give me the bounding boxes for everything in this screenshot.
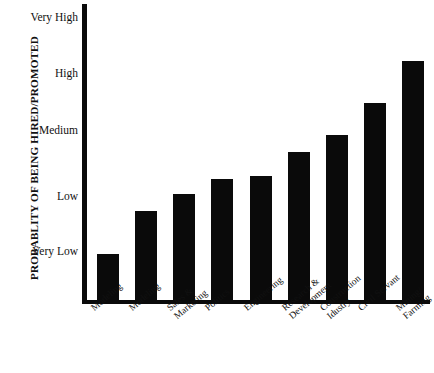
y-axis-tick-labels: Very High High Medium Low Very Low — [4, 0, 78, 310]
y-tick-label-very-low: Very Low — [4, 245, 78, 258]
y-tick-label-medium: Medium — [4, 124, 78, 137]
y-tick-label-very-high: Very High — [4, 11, 78, 24]
y-tick-label-low: Low — [4, 190, 78, 203]
bar — [288, 152, 310, 300]
x-axis-tick-labels: ModelingModelingSales & MarketingPolitic… — [82, 305, 434, 371]
bar-chart: PROBABLITY OF BEING HIRED/PROMOTED Very … — [0, 0, 434, 373]
y-tick-label-high: High — [4, 67, 78, 80]
